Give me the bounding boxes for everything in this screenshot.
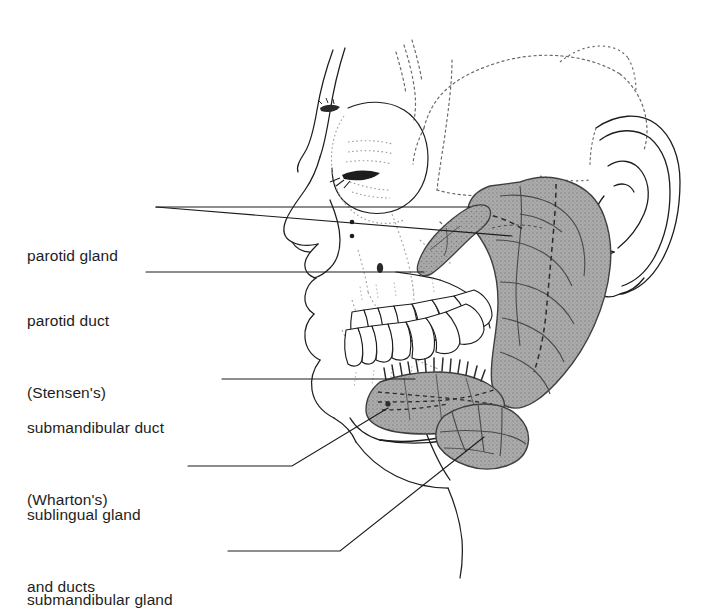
label-parotid-duct-line1: parotid duct [27,309,109,333]
label-sublingual-gland-line1: sublingual gland [27,503,141,527]
label-submandibular-gland: submandibular gland [27,540,173,612]
duct-orifice-dot [385,401,390,406]
label-submandibular-duct-line1: submandibular duct [27,416,164,440]
foramen-dot [350,234,355,239]
label-submandibular-gland-line1: submandibular gland [27,588,173,612]
